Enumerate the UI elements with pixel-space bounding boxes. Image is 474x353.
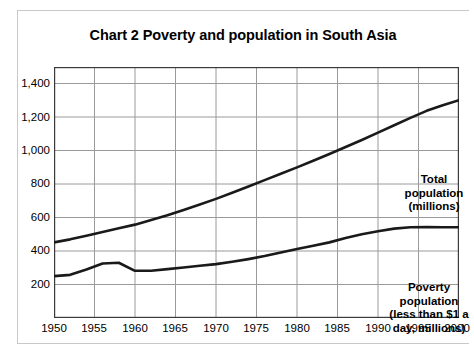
plot-area: Total population (millions) Poverty popu… — [54, 67, 459, 318]
y-tick-1200: 1,200 — [4, 112, 50, 123]
annotation-total-population: Total population (millions) — [382, 173, 474, 214]
y-tick-600: 600 — [4, 212, 50, 223]
x-tick-2000: 2000 — [433, 322, 474, 334]
y-tick-1000: 1,000 — [4, 145, 50, 156]
y-tick-800: 800 — [4, 178, 50, 189]
x-axis: 1950 1955 1960 1965 1970 1975 1980 1985 … — [0, 322, 474, 342]
y-tick-200: 200 — [4, 279, 50, 290]
chart-title: Chart 2 Poverty and population in South … — [17, 27, 469, 43]
chart-page: Chart 2 Poverty and population in South … — [0, 0, 474, 353]
y-tick-1400: 1,400 — [4, 78, 50, 89]
y-axis: 1,400 1,200 1,000 800 600 400 200 — [0, 67, 50, 318]
y-tick-400: 400 — [4, 245, 50, 256]
